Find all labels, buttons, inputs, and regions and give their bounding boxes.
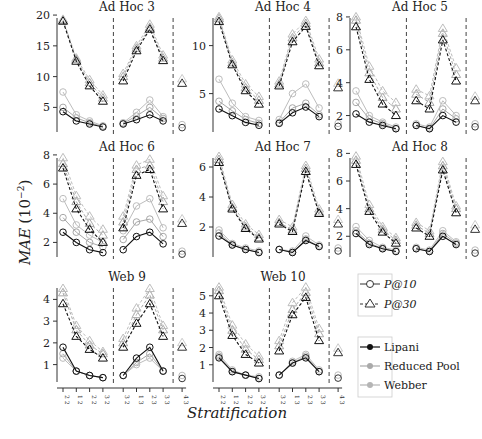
legend-methods: Lipani Reduced Pool Webber bbox=[358, 337, 460, 397]
y-tick-label: 15 bbox=[36, 40, 50, 53]
x-tick-label: 3 3 bbox=[320, 395, 327, 405]
y-tick-label: 2 bbox=[336, 230, 343, 243]
y-tick-label: 6 bbox=[199, 161, 206, 174]
panel-title: Ad Hoc 8 bbox=[391, 140, 448, 154]
x-axis-label: Stratification bbox=[187, 404, 287, 422]
x-tick-label: 3 2 bbox=[104, 395, 111, 405]
panel-ad-hoc-5: Ad Hoc 52468 bbox=[336, 0, 480, 134]
lipani-swatch-icon bbox=[367, 344, 373, 350]
y-tick-label: 4 bbox=[43, 293, 50, 306]
y-tick-label: 4 bbox=[43, 207, 50, 220]
x-tick-label: 2 2 bbox=[91, 395, 98, 405]
y-tick-label: 4 bbox=[336, 203, 343, 216]
y-tick-label: 5 bbox=[199, 290, 206, 303]
y-tick-label: 1 bbox=[199, 359, 206, 372]
y-tick-label: 8 bbox=[336, 147, 343, 160]
x-tick-label: 1 3 bbox=[294, 395, 301, 405]
panel-title: Ad Hoc 6 bbox=[98, 140, 155, 154]
panel-web-9: Web 912342 21 22 23 23 21 32 33 34 3 bbox=[43, 270, 190, 405]
panel-ad-hoc-8: Ad Hoc 82468 bbox=[336, 140, 480, 259]
y-tick-label: 5 bbox=[43, 101, 50, 114]
panel-title: Web 9 bbox=[108, 270, 146, 284]
y-tick-label: 8 bbox=[336, 11, 343, 24]
panel-web-10: Web 10123452 21 22 23 23 21 32 33 34 3 bbox=[199, 270, 346, 405]
circle-marker-icon bbox=[367, 281, 374, 288]
x-tick-label: 3 3 bbox=[164, 395, 171, 405]
legend-label-p10: P@10 bbox=[383, 278, 416, 291]
x-tick-label: 2 3 bbox=[151, 395, 158, 405]
y-tick-label: 20 bbox=[36, 9, 50, 22]
x-tick-label: 1 2 bbox=[77, 395, 84, 405]
y-tick-label: 2 bbox=[199, 342, 206, 355]
y-tick-label: 2 bbox=[336, 110, 343, 123]
panel-title: Web 10 bbox=[260, 270, 305, 284]
y-tick-label: 4 bbox=[199, 307, 206, 320]
x-tick-label: 2 2 bbox=[64, 395, 71, 405]
y-tick-label: 2 bbox=[43, 236, 50, 249]
y-tick-label: 4 bbox=[336, 77, 343, 90]
y-tick-label: 5 bbox=[199, 88, 206, 101]
panel-ad-hoc-7: Ad Hoc 7246 bbox=[199, 140, 343, 259]
panel-title: Ad Hoc 4 bbox=[254, 0, 311, 14]
reduced-pool-swatch-icon bbox=[367, 363, 373, 369]
legend-label-lipani: Lipani bbox=[384, 341, 420, 354]
y-tick-label: 3 bbox=[43, 315, 50, 328]
y-tick-label: 6 bbox=[43, 178, 50, 191]
panel-title: Ad Hoc 7 bbox=[254, 140, 311, 154]
x-tick-label: 3 2 bbox=[124, 395, 131, 405]
y-tick-label: 10 bbox=[36, 71, 50, 84]
y-tick-label: 2 bbox=[43, 337, 50, 350]
y-axis-label: MAE(10−2) bbox=[16, 180, 34, 266]
panel-ad-hoc-3: Ad Hoc 35101520 bbox=[36, 0, 187, 134]
y-tick-label: 3 bbox=[199, 324, 206, 337]
figure: Ad Hoc 35101520Ad Hoc 4510Ad Hoc 52468Ad… bbox=[0, 0, 482, 439]
legend-label-webber: Webber bbox=[384, 379, 428, 392]
panel-ad-hoc-6: Ad Hoc 62468 bbox=[43, 140, 187, 259]
y-tick-label: 6 bbox=[336, 175, 343, 188]
x-tick-label: 1 3 bbox=[138, 395, 145, 405]
legend-label-reduced-pool: Reduced Pool bbox=[384, 360, 460, 373]
panel-title: Ad Hoc 5 bbox=[391, 0, 448, 14]
y-tick-label: 4 bbox=[199, 191, 206, 204]
webber-swatch-icon bbox=[367, 382, 373, 388]
panel-title: Ad Hoc 3 bbox=[98, 0, 155, 14]
x-tick-label: 2 3 bbox=[307, 395, 314, 405]
legend-label-p30: P@30 bbox=[383, 298, 416, 311]
triangle-marker-icon bbox=[365, 299, 375, 307]
x-tick-label: 4 3 bbox=[339, 395, 346, 405]
y-tick-label: 8 bbox=[43, 149, 50, 162]
y-tick-label: 2 bbox=[199, 221, 206, 234]
y-tick-label: 1 bbox=[43, 359, 50, 372]
legend-metrics: P@10 P@30 bbox=[358, 274, 416, 316]
panel-ad-hoc-4: Ad Hoc 4510 bbox=[192, 0, 343, 134]
y-tick-label: 6 bbox=[336, 44, 343, 57]
y-tick-label: 10 bbox=[192, 40, 206, 53]
